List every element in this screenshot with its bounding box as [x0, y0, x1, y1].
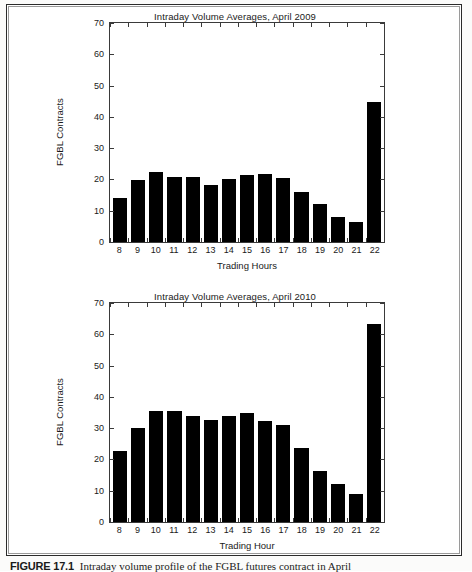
bar-slot	[147, 303, 165, 522]
x-tick-label: 9	[128, 525, 146, 535]
x-tick-mark-bottom	[183, 238, 184, 242]
bar-slot	[184, 23, 202, 242]
x-tick-mark-bottom	[293, 238, 294, 242]
y-axis-title-2010: FGBL Contracts	[54, 378, 65, 446]
x-tick-mark-top	[293, 303, 294, 307]
bar-21	[349, 494, 363, 522]
y-tick-label: 20	[94, 174, 104, 184]
bar-8	[113, 451, 127, 522]
x-tick-label: 10	[147, 245, 165, 255]
bar-slot	[347, 303, 365, 522]
x-tick-mark-top	[238, 23, 239, 27]
x-tick-mark-top	[165, 303, 166, 307]
y-tick-label: 10	[94, 486, 104, 496]
bar-slot	[256, 23, 274, 242]
x-tick-mark-bottom	[366, 518, 367, 522]
y-tick-mark	[110, 522, 114, 523]
bar-14	[222, 179, 236, 242]
y-tick-label: 40	[94, 392, 104, 402]
x-tick-label: 11	[165, 245, 183, 255]
y-tick-mark-right	[380, 242, 384, 243]
x-tick-mark-top	[128, 303, 129, 307]
y-tick-mark	[110, 242, 114, 243]
x-tick-mark-top	[293, 23, 294, 27]
x-tick-mark-top	[329, 303, 330, 307]
bar-slot	[202, 303, 220, 522]
bar-18	[294, 448, 308, 522]
bar-15	[240, 175, 254, 242]
plot-area-2010: 010203040506070	[109, 302, 385, 523]
y-tick-mark	[110, 211, 114, 212]
x-tick-label: 8	[110, 245, 128, 255]
y-tick-label: 70	[94, 18, 104, 28]
x-tick-mark-top	[311, 23, 312, 27]
x-tick-label: 12	[183, 245, 201, 255]
bar-slot	[184, 303, 202, 522]
bar-slot	[311, 303, 329, 522]
bar-15	[240, 413, 254, 523]
bar-12	[186, 177, 200, 242]
bar-12	[186, 416, 200, 522]
x-tick-mark-bottom	[311, 238, 312, 242]
x-tick-mark-bottom	[220, 238, 221, 242]
x-tick-mark-top	[238, 303, 239, 307]
x-tick-mark-bottom	[311, 518, 312, 522]
x-tick-mark-bottom	[274, 518, 275, 522]
bar-slot	[311, 23, 329, 242]
y-tick-mark	[110, 459, 114, 460]
bar-slot	[111, 23, 129, 242]
y-tick-mark-right	[380, 491, 384, 492]
x-tick-label: 19	[311, 245, 329, 255]
x-tick-mark-top	[329, 23, 330, 27]
bar-slot	[220, 23, 238, 242]
y-tick-mark	[110, 54, 114, 55]
bar-slot	[329, 303, 347, 522]
bar-9	[131, 180, 145, 242]
x-tick-mark-top	[220, 23, 221, 27]
bar-slot	[347, 23, 365, 242]
chart-panel-2010: Intraday Volume Averages, April 2010 010…	[7, 287, 463, 557]
x-tick-mark-bottom	[293, 518, 294, 522]
x-tick-mark-top	[183, 303, 184, 307]
x-tick-label: 19	[311, 525, 329, 535]
x-tick-mark-top	[311, 303, 312, 307]
y-tick-label: 60	[94, 49, 104, 59]
y-tick-label: 0	[99, 517, 104, 527]
x-tick-mark-top	[201, 23, 202, 27]
bar-14	[222, 416, 236, 522]
x-tick-label: 15	[238, 245, 256, 255]
figure-caption: FIGURE 17.1Intraday volume profile of th…	[10, 560, 462, 572]
x-tick-label: 16	[256, 245, 274, 255]
bar-9	[131, 428, 145, 522]
y-tick-mark	[110, 179, 114, 180]
x-tick-label: 22	[366, 245, 384, 255]
x-axis-title-2009: Trading Hours	[109, 260, 385, 271]
y-tick-mark	[110, 366, 114, 367]
y-tick-mark-right	[380, 179, 384, 180]
bar-slot	[129, 23, 147, 242]
x-tick-label: 16	[256, 525, 274, 535]
x-tick-label: 18	[293, 525, 311, 535]
y-tick-mark-right	[380, 211, 384, 212]
bar-20	[331, 484, 345, 522]
x-tick-mark-top	[256, 303, 257, 307]
y-tick-mark	[110, 491, 114, 492]
y-tick-label: 30	[94, 143, 104, 153]
x-tick-mark-top	[384, 23, 385, 27]
bar-10	[149, 172, 163, 242]
bar-22	[367, 102, 381, 242]
bar-slot	[238, 303, 256, 522]
y-tick-mark-right	[380, 54, 384, 55]
bar-19	[313, 471, 327, 522]
bar-slot	[147, 23, 165, 242]
x-tick-label: 15	[238, 525, 256, 535]
x-tick-mark-bottom	[256, 238, 257, 242]
x-tick-label: 22	[366, 525, 384, 535]
y-tick-label: 30	[94, 423, 104, 433]
x-tick-mark-bottom	[147, 238, 148, 242]
x-tick-mark-bottom	[238, 518, 239, 522]
bar-8	[113, 198, 127, 242]
x-tick-label: 18	[293, 245, 311, 255]
bar-slot	[365, 23, 383, 242]
x-tick-mark-bottom	[384, 238, 385, 242]
